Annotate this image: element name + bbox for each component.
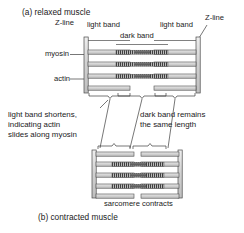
relaxed-sarcomere	[84, 37, 200, 93]
myofibril-row-contracted	[96, 162, 179, 166]
z-line-left-relaxed	[84, 37, 88, 93]
myofibril-row-contracted	[96, 152, 179, 156]
myofibril-row-relaxed	[88, 74, 196, 78]
contracted-sarcomere	[92, 150, 182, 198]
myofibril-row-contracted	[96, 194, 179, 198]
z-line-left-contracted	[92, 150, 96, 198]
z-line-right-relaxed	[196, 37, 200, 93]
sarcomere-vector-graphics	[0, 0, 244, 233]
myofibril-row-contracted	[96, 184, 179, 188]
leader-left-note	[100, 100, 108, 108]
myofibril-row-relaxed	[88, 62, 196, 66]
sliding-filament-figure: (a) relaxed muscle (b) contracted muscle…	[0, 0, 244, 233]
myofibril-row-relaxed	[88, 50, 196, 54]
myofibril-row-contracted	[96, 173, 179, 177]
myofibril-row-relaxed	[88, 86, 196, 90]
connector-braces	[89, 93, 195, 149]
